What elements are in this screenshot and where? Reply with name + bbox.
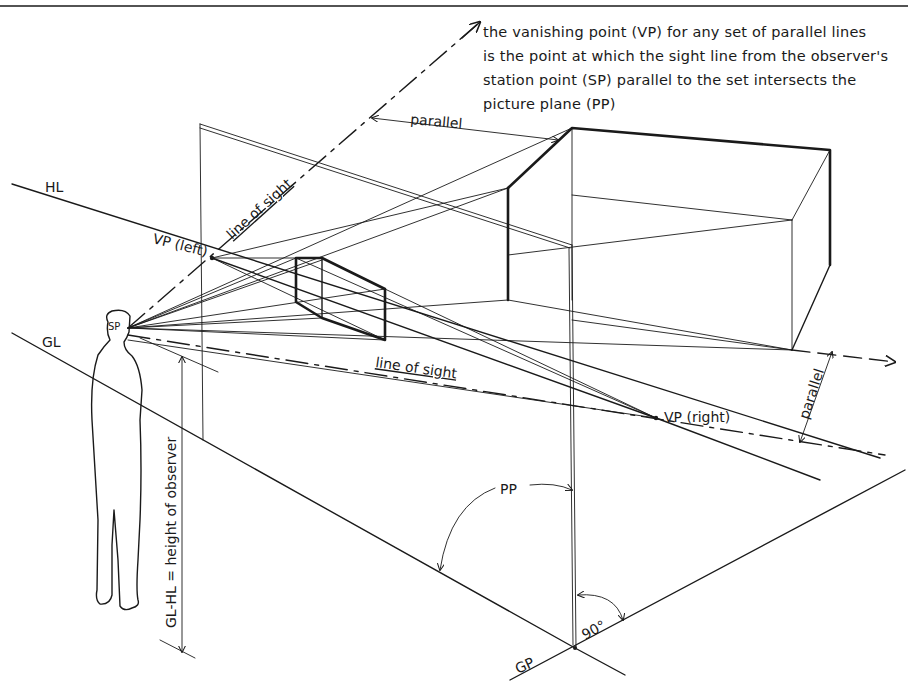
line-of-sight-lower — [128, 335, 885, 455]
label-parallel-right: parallel — [796, 366, 827, 420]
label-line-of-sight-upper: line of sight — [223, 175, 295, 242]
gp-intersection-point — [573, 646, 577, 650]
ground-plane-line — [510, 470, 905, 680]
label-vp-right: VP (right) — [664, 409, 730, 425]
label-hl: HL — [45, 179, 64, 195]
vp-left-arrow-tip — [462, 22, 480, 38]
pp-pointer-right — [530, 484, 572, 490]
label-height-of-observer: GL-HL = height of observer — [163, 437, 179, 628]
right-angle-arc — [578, 595, 623, 620]
sight-lines — [128, 128, 792, 350]
svg-text:is the point at which the sigh: is the point at which the sight line fro… — [483, 48, 888, 64]
projected-box — [296, 258, 385, 340]
parallel-edge-arrow — [792, 350, 895, 362]
vp-right-point — [654, 416, 658, 420]
label-gl: GL — [42, 334, 61, 350]
title-note: the vanishing point (VP) for any set of … — [483, 24, 888, 112]
label-parallel-top: parallel — [410, 111, 463, 131]
label-90-degrees: 90° — [579, 617, 608, 643]
parallel-dimension-top — [372, 118, 558, 140]
label-sp: SP — [108, 321, 120, 332]
label-line-of-sight-lower: line of sight — [375, 354, 459, 381]
height-dim-bottom-tick — [160, 640, 195, 658]
object-box — [508, 128, 830, 350]
pp-pointer-left — [440, 488, 495, 570]
svg-text:picture plane (PP): picture plane (PP) — [483, 96, 616, 112]
label-pp: PP — [500, 481, 517, 497]
label-gp: GP — [513, 654, 537, 677]
svg-text:station point (SP) parallel to: station point (SP) parallel to the set i… — [483, 72, 856, 88]
ground-line-extension — [575, 648, 625, 675]
observer-figure — [92, 310, 142, 609]
perspective-diagram: HL GL SP VP (left) VP (right) line of si… — [0, 0, 908, 693]
svg-text:the vanishing point (VP) for a: the vanishing point (VP) for any set of … — [483, 24, 866, 40]
vp-left-point — [210, 256, 214, 260]
line-of-sight-upper — [128, 22, 480, 328]
